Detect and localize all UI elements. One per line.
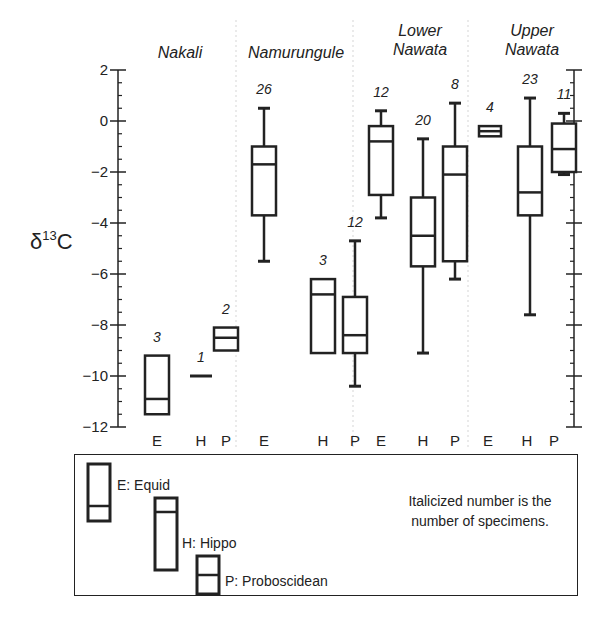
category-label: E xyxy=(259,432,269,449)
category-label: H xyxy=(522,432,533,449)
specimen-count: 1 xyxy=(197,349,205,365)
y-tick-label: −8 xyxy=(91,316,108,333)
y-label-superscript: 13 xyxy=(42,228,56,243)
y-tick-label: −2 xyxy=(91,163,108,180)
box xyxy=(411,198,435,267)
group-title: Namurungule xyxy=(248,44,344,61)
category-label: E xyxy=(376,432,386,449)
box xyxy=(443,147,467,262)
category-label: P xyxy=(221,432,231,449)
category-label: P xyxy=(450,432,460,449)
specimen-count: 3 xyxy=(153,329,161,345)
specimen-count: 3 xyxy=(319,252,327,268)
legend-proboscidean-label: P: Proboscidean xyxy=(225,573,328,589)
group-title: Nawata xyxy=(393,41,447,58)
legend-equid-box-icon xyxy=(88,464,110,521)
specimen-count: 4 xyxy=(486,99,494,115)
y-label-c: C xyxy=(57,229,73,254)
specimen-count: 11 xyxy=(557,86,572,102)
legend-note-line2: number of specimens. xyxy=(385,511,575,531)
category-label: E xyxy=(483,432,493,449)
box xyxy=(311,279,335,353)
legend-equid-label: E: Equid xyxy=(117,477,170,493)
legend: E: Equid H: Hippo P: Proboscidean Italic… xyxy=(74,454,578,596)
y-tick-label: 0 xyxy=(100,112,108,129)
specimen-count: 12 xyxy=(373,84,389,100)
group-title: Upper xyxy=(510,22,554,39)
box xyxy=(552,124,576,172)
y-tick-label: −10 xyxy=(83,367,108,384)
specimen-count: 23 xyxy=(521,71,538,87)
specimen-count: 8 xyxy=(451,76,459,92)
category-label: H xyxy=(318,432,329,449)
box xyxy=(369,126,393,195)
y-axis-label: δ13C xyxy=(30,228,73,255)
group-title: Lower xyxy=(398,22,442,39)
box xyxy=(214,328,238,351)
specimen-count: 20 xyxy=(414,112,431,128)
category-label: P xyxy=(549,432,559,449)
category-label: P xyxy=(350,432,360,449)
legend-note: Italicized number is the number of speci… xyxy=(385,491,575,531)
legend-note-line1: Italicized number is the xyxy=(385,491,575,511)
specimen-count: 2 xyxy=(221,301,230,317)
category-label: E xyxy=(152,432,162,449)
legend-proboscidean-box-icon xyxy=(197,556,219,594)
y-tick-label: −12 xyxy=(83,418,108,435)
specimen-count: 12 xyxy=(347,214,363,230)
box xyxy=(518,147,542,216)
y-label-delta: δ xyxy=(30,229,42,254)
box xyxy=(343,297,367,353)
legend-hippo-box-icon xyxy=(155,498,177,570)
y-tick-label: −6 xyxy=(91,265,108,282)
box xyxy=(145,356,169,415)
legend-hippo-label: H: Hippo xyxy=(182,535,236,551)
category-label: H xyxy=(196,432,207,449)
group-title: Nakali xyxy=(158,44,203,61)
category-label: H xyxy=(418,432,429,449)
group-title: Nawata xyxy=(505,41,559,58)
y-tick-label: 2 xyxy=(100,61,108,78)
y-tick-label: −4 xyxy=(91,214,108,231)
specimen-count: 26 xyxy=(255,81,272,97)
box xyxy=(252,147,276,216)
